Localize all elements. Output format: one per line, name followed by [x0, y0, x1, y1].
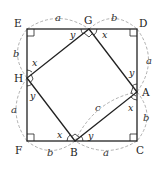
- vertex-label-G: G: [84, 14, 92, 26]
- arc-FH: [16, 78, 27, 141]
- angle-label-A-bottom: x: [128, 102, 134, 113]
- side-label-HE: b: [13, 48, 19, 59]
- angle-label-G-right: x: [102, 29, 108, 40]
- side-label-AB: c: [95, 102, 101, 113]
- angle-arc-G-right: [94, 29, 97, 35]
- pythagorean-square-diagram: E G D A C B F H a b a b a b a b c y x y …: [0, 0, 161, 169]
- side-label-GD: b: [111, 12, 117, 23]
- right-angle-E: [27, 29, 34, 36]
- inner-square: [27, 29, 137, 141]
- side-label-DA: a: [146, 55, 152, 66]
- vertex-label-E: E: [14, 17, 22, 29]
- angle-arc-A-top: [132, 84, 137, 86]
- side-label-EG: a: [55, 12, 61, 23]
- right-angle-C: [130, 134, 137, 141]
- vertex-label-C: C: [136, 144, 144, 156]
- vertex-label-A: A: [141, 86, 150, 98]
- angle-arc-H-top: [27, 70, 32, 72]
- angle-label-B-right: y: [87, 130, 94, 141]
- angle-label-G-left: y: [69, 29, 76, 40]
- side-label-CB: a: [103, 147, 109, 158]
- vertex-label-B: B: [70, 146, 78, 158]
- side-label-BF: b: [47, 147, 53, 158]
- angle-label-B-left: x: [57, 129, 63, 140]
- side-label-AC: b: [143, 112, 149, 123]
- vertex-label-H: H: [14, 72, 23, 84]
- side-label-FH: a: [11, 104, 17, 115]
- angle-arc-B-left: [67, 135, 70, 141]
- angle-label-H-top: x: [32, 57, 38, 68]
- angle-label-H-bottom: y: [29, 90, 36, 101]
- angle-arc-A-bottom: [131, 97, 137, 100]
- angle-label-A-top: y: [128, 67, 135, 78]
- vertex-label-F: F: [15, 144, 22, 156]
- angle-arc-B-right: [81, 136, 83, 141]
- outer-square: [27, 29, 137, 141]
- right-angle-D: [130, 29, 137, 36]
- vertex-label-D: D: [139, 17, 147, 29]
- right-angle-G: [84, 33, 93, 37]
- angle-arc-H-bottom: [27, 84, 32, 86]
- angle-arc-G-left: [81, 29, 83, 34]
- right-angle-F: [27, 134, 34, 141]
